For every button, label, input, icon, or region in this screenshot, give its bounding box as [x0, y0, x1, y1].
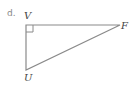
right-angle-marker-icon	[26, 25, 33, 32]
vertex-label-v: V	[24, 11, 31, 21]
vertex-label-u: U	[24, 73, 32, 83]
right-triangle-figure: d. V F U	[0, 0, 134, 94]
vertex-label-f: F	[121, 21, 128, 31]
triangle-diagram	[0, 0, 134, 94]
triangle-vuf	[26, 25, 120, 70]
